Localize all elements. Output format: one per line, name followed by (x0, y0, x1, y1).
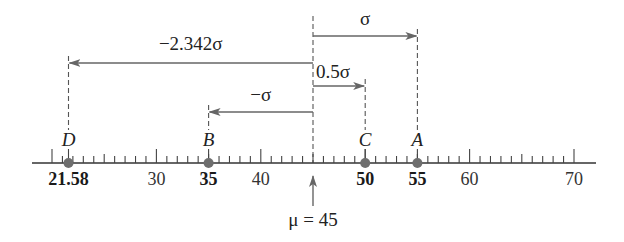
point-marker-a (412, 158, 422, 168)
tick-label: 30 (147, 169, 165, 189)
tick-label: 21.58 (48, 169, 89, 189)
point-marker-c (360, 158, 370, 168)
tick-label: 40 (252, 169, 270, 189)
tick-label: 50 (356, 169, 374, 189)
deviation-label: −2.342σ (159, 33, 223, 54)
tick-label: 70 (565, 169, 583, 189)
point-label-d: D (61, 129, 76, 150)
deviation-arrows: σ−2.342σ0.5σ−σ (69, 8, 416, 112)
point-marker-d (63, 158, 73, 168)
tick-label: 60 (461, 169, 479, 189)
point-marker-b (204, 158, 214, 168)
point-label-a: A (410, 129, 424, 150)
mean-label: μ = 45 (288, 209, 337, 230)
tick-label: 55 (408, 169, 426, 189)
point-label-c: C (359, 129, 372, 150)
number-line-axis: 21.5830354050556070 (32, 149, 596, 189)
deviation-label: −σ (250, 84, 271, 105)
mean-marker: μ = 45 (288, 176, 337, 230)
number-line-figure: σ−2.342σ0.5σ−σ 21.5830354050556070 DBCA … (0, 0, 624, 242)
z-score-diagram: σ−2.342σ0.5σ−σ 21.5830354050556070 DBCA … (0, 0, 624, 242)
deviation-label: σ (360, 8, 370, 29)
point-label-b: B (203, 129, 215, 150)
deviation-label: 0.5σ (316, 61, 350, 82)
tick-label: 35 (200, 169, 218, 189)
